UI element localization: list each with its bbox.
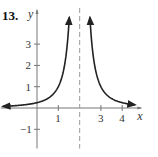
function-graph: xy 134−1123 — [0, 0, 158, 157]
curve-branches — [3, 17, 135, 106]
y-tick-label: 1 — [26, 81, 32, 93]
left-branch-curve — [3, 17, 69, 106]
y-axis-label: y — [27, 7, 34, 21]
y-tick-label: 3 — [26, 38, 32, 50]
y-tick-label: 2 — [26, 59, 32, 71]
x-axis-label: x — [136, 109, 143, 123]
tick-marks: 134−1123 — [20, 38, 125, 135]
x-tick-label: 3 — [98, 112, 104, 124]
x-tick-label: 1 — [55, 112, 61, 124]
x-tick-label: 4 — [119, 112, 125, 124]
right-branch-curve — [90, 17, 135, 104]
y-tick-label: −1 — [20, 123, 32, 135]
